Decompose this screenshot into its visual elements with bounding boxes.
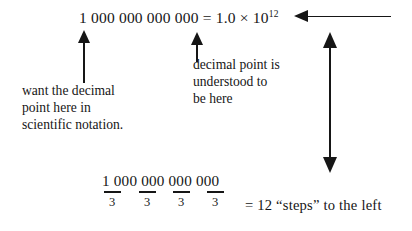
arrowhead-up-icon	[78, 30, 90, 43]
digit-group-markers: 3 3 3 3	[100, 191, 235, 217]
digit-group-marker: 3	[135, 191, 159, 208]
arrow-shaft	[306, 16, 391, 18]
arrow-shaft	[83, 43, 85, 83]
digit-group-marker: 3	[203, 191, 227, 208]
bottom-result: = 12 “steps” to the left	[245, 198, 382, 213]
group-count: 3	[169, 196, 193, 208]
digit-group-marker: 3	[100, 191, 124, 208]
arrow-up-to-leading-one	[77, 30, 91, 83]
annotation-right: decimal point is understood to be here	[193, 56, 333, 107]
equation-line: 1 000 000 000 000 = 1.0 × 1012	[79, 10, 279, 26]
group-count: 3	[100, 196, 124, 208]
arrow-left-to-exponent	[294, 10, 391, 23]
equation-exponent: 12	[269, 9, 279, 19]
arrowhead-up-icon	[191, 32, 203, 45]
bottom-number: 1 000 000 000 000	[102, 173, 219, 188]
group-count: 3	[135, 196, 159, 208]
group-underline	[139, 191, 156, 193]
digit-group-marker: 3	[169, 191, 193, 208]
equation-equals: =	[199, 9, 216, 26]
arrowhead-down-icon	[323, 157, 337, 173]
group-count: 3	[203, 196, 227, 208]
annotation-left: want the decimal point here in scientifi…	[22, 82, 197, 133]
group-underline	[207, 191, 224, 193]
scientific-notation-diagram: 1 000 000 000 000 = 1.0 × 1012 want the …	[0, 0, 412, 231]
group-underline	[104, 191, 121, 193]
equation-number: 1 000 000 000 000	[79, 9, 199, 26]
group-underline	[173, 191, 190, 193]
equation-coefficient: 1.0 × 10	[216, 9, 269, 26]
